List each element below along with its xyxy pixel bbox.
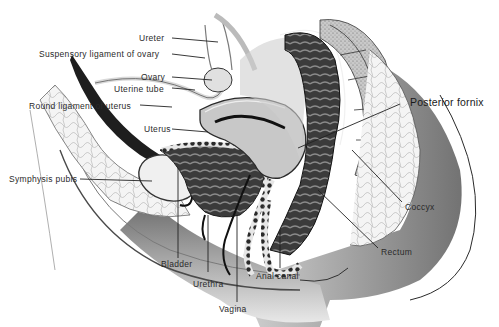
label-ovary: Ovary	[141, 72, 165, 82]
label-coccyx: Coccyx	[405, 202, 435, 212]
label-uterine-tube: Uterine tube	[114, 84, 164, 94]
label-bladder: Bladder	[161, 259, 192, 269]
label-round-ligament: Round ligament of uterus	[29, 101, 131, 111]
anatomy-diagram: Ureter Suspensory ligament of ovary Ovar…	[0, 0, 499, 327]
label-posterior-fornix: Posterior fornix	[410, 97, 484, 107]
label-urethra: Urethra	[193, 279, 223, 289]
label-symphysis-pubis: Symphysis pubis	[9, 174, 77, 184]
label-anal-canal: Anal canal	[256, 271, 299, 281]
label-rectum: Rectum	[381, 247, 412, 257]
label-vagina: Vagina	[219, 304, 247, 314]
label-suspensory-ligament: Suspensory ligament of ovary	[39, 49, 159, 59]
label-ureter: Ureter	[139, 33, 164, 43]
label-uterus: Uterus	[144, 124, 171, 134]
